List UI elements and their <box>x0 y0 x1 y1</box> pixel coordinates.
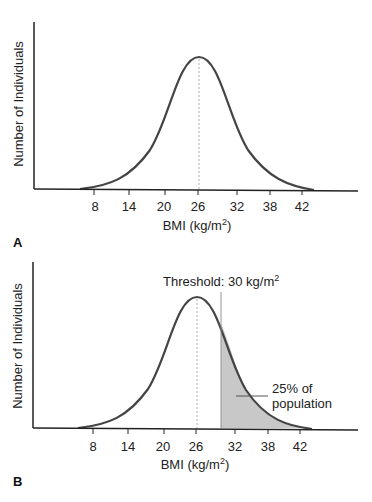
tick-label: 42 <box>293 439 307 454</box>
panel-b-x-tick-labels: 8 14 20 26 32 38 42 <box>89 439 307 454</box>
tick-label: 8 <box>89 439 96 454</box>
tick-label: 32 <box>230 199 244 214</box>
tick-label: 38 <box>263 199 277 214</box>
panel-a-label: A <box>13 235 23 250</box>
panel-b-y-axis-title: Number of Individuals <box>10 283 25 409</box>
panel-b-annotation-line1: 25% of <box>272 381 313 396</box>
tick-label: 42 <box>295 199 309 214</box>
panel-a-x-tick-labels: 8 14 20 26 32 38 42 <box>91 199 309 214</box>
tick-label: 8 <box>91 199 98 214</box>
tick-label: 14 <box>122 199 136 214</box>
tick-label: 20 <box>157 199 171 214</box>
tick-label: 38 <box>261 439 275 454</box>
tick-label: 26 <box>189 439 203 454</box>
panel-a-x-axis-title: BMI (kg/m2) <box>163 217 232 233</box>
panel-a-y-axis-title: Number of Individuals <box>11 41 26 167</box>
tick-label: 14 <box>121 439 135 454</box>
panel-b: 8 14 20 26 32 38 42 BMI (kg/m2) Number o… <box>10 262 358 489</box>
tick-label: 26 <box>191 199 205 214</box>
panel-b-annotation-line2: population <box>272 396 332 411</box>
tick-label: 32 <box>228 439 242 454</box>
panel-a: 8 14 20 26 32 38 42 BMI (kg/m2) Number o… <box>11 22 358 250</box>
panel-b-label: B <box>13 474 22 489</box>
panel-b-x-axis-title: BMI (kg/m2) <box>161 456 230 472</box>
panel-b-threshold-label: Threshold: 30 kg/m2 <box>163 273 279 289</box>
figure: 8 14 20 26 32 38 42 BMI (kg/m2) Number o… <box>0 0 372 502</box>
tick-label: 20 <box>156 439 170 454</box>
panel-a-bell-curve <box>80 57 314 190</box>
